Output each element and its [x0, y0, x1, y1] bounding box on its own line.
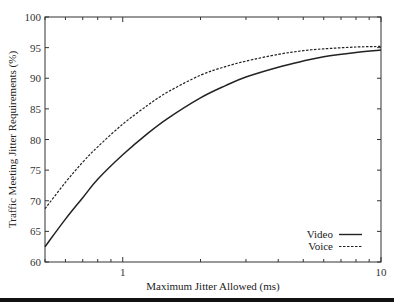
bottom-rule — [0, 298, 394, 302]
y-tick-label: 95 — [30, 42, 42, 54]
y-tick-label: 100 — [25, 11, 42, 23]
line-chart: 6065707580859095100 110 Traffic Meeting … — [0, 0, 394, 308]
y-axis-label: Traffic Meeting Jitter Requirements (%) — [6, 51, 19, 229]
y-tick-label: 90 — [30, 72, 42, 84]
series-line-voice — [45, 46, 381, 208]
x-axis-label: Maximum Jitter Allowed (ms) — [146, 280, 280, 293]
data-series — [45, 46, 381, 246]
x-tick-label: 1 — [120, 266, 126, 278]
legend-label-voice: Voice — [308, 240, 333, 252]
y-tick-label: 75 — [30, 164, 42, 176]
legend-label-video: Video — [307, 228, 334, 240]
y-tick-label: 85 — [30, 103, 42, 115]
y-tick-label: 65 — [30, 225, 42, 237]
series-line-video — [45, 50, 381, 247]
y-tick-label: 70 — [30, 195, 42, 207]
plot-frame — [45, 17, 381, 262]
y-tick-label: 80 — [30, 134, 42, 146]
y-tick-label: 60 — [30, 256, 42, 268]
x-tick-label: 10 — [376, 266, 388, 278]
legend: Video Voice — [307, 228, 362, 252]
